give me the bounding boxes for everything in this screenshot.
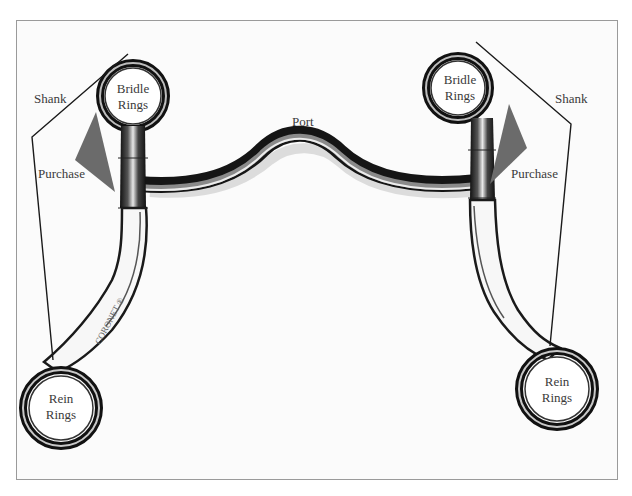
label-shank-right: Shank xyxy=(555,91,588,106)
label-shank-left: Shank xyxy=(34,91,67,106)
label-line: Rein xyxy=(31,391,91,407)
label-line: Rings xyxy=(527,390,587,406)
bit-illustration: CORONET ® xyxy=(0,0,632,496)
mouthpiece-port xyxy=(138,134,478,190)
label-bridle-rings-right: Bridle Rings xyxy=(430,72,490,104)
label-bridle-rings-left: Bridle Rings xyxy=(103,81,163,113)
label-line: Bridle xyxy=(430,72,490,88)
label-purchase-right: Purchase xyxy=(511,166,558,181)
label-line: Rings xyxy=(103,97,163,113)
label-line: Bridle xyxy=(103,81,163,97)
label-port: Port xyxy=(292,114,314,129)
label-purchase-left: Purchase xyxy=(38,166,85,181)
label-rein-rings-right: Rein Rings xyxy=(527,374,587,406)
label-line: Rings xyxy=(430,88,490,104)
label-rein-rings-left: Rein Rings xyxy=(31,391,91,423)
label-line: Rings xyxy=(31,407,91,423)
label-line: Rein xyxy=(527,374,587,390)
